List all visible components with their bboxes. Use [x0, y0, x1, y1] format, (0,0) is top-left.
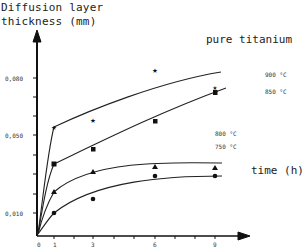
circle-icon [52, 211, 57, 216]
chart-plot: ★ ★ ★ ★ [0, 0, 305, 251]
x-axis-arrow-icon [238, 232, 250, 240]
markers-900c: ★ ★ ★ ★ [51, 65, 217, 132]
curve-800c [38, 163, 222, 234]
curve-850c [38, 88, 226, 234]
star-icon: ★ [51, 122, 57, 132]
square-icon [153, 119, 158, 124]
square-icon [91, 147, 96, 152]
markers-800c [51, 164, 218, 194]
circle-icon [153, 174, 158, 179]
markers-750c [52, 174, 218, 216]
markers-850c [52, 90, 218, 167]
star-icon: ★ [90, 115, 96, 125]
y-axis-arrow-icon [33, 30, 41, 42]
curve-750c [38, 176, 222, 234]
circle-icon [91, 197, 96, 202]
square-icon [213, 90, 218, 95]
curve-900c [38, 72, 221, 234]
axes [33, 30, 250, 240]
square-icon [52, 162, 57, 167]
star-icon: ★ [152, 65, 158, 75]
triangle-icon [152, 164, 158, 169]
triangle-icon [212, 165, 218, 170]
circle-icon [213, 174, 218, 179]
